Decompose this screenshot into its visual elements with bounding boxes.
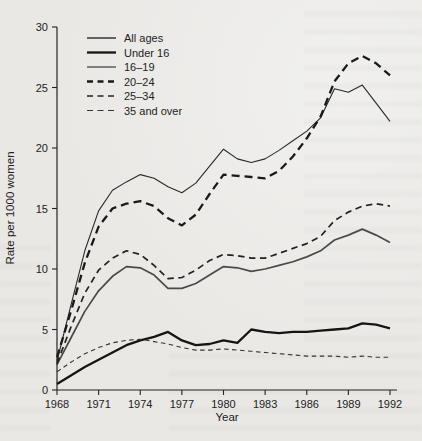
- x-tick-label: 1968: [45, 398, 69, 410]
- x-tick-label: 1992: [378, 398, 402, 410]
- x-tick-label: 1974: [128, 398, 152, 410]
- legend-label: 20–24: [124, 76, 155, 88]
- x-tick-label: 1983: [253, 398, 277, 410]
- legend: All agesUnder 1616–1920–2425–3435 and ov…: [87, 32, 182, 117]
- y-tick-label: 5: [42, 324, 48, 336]
- legend-item-20-24: 20–24: [87, 76, 155, 88]
- scanned-book-page: 1968197119741977198019831986198919920510…: [0, 0, 422, 441]
- axes-layer: 1968197119741977198019831986198919920510…: [36, 21, 402, 410]
- series-line-16-19: [57, 85, 390, 361]
- legend-label: Under 16: [124, 47, 169, 59]
- legend-item-25-34: 25–34: [87, 90, 155, 102]
- abortion-rate-line-chart: 1968197119741977198019831986198919920510…: [0, 0, 422, 441]
- y-tick-label: 0: [42, 384, 48, 396]
- legend-label: All ages: [124, 32, 164, 44]
- legend-label: 16–19: [124, 61, 155, 73]
- legend-label: 25–34: [124, 90, 155, 102]
- x-tick-label: 1977: [170, 398, 194, 410]
- y-tick-label: 25: [36, 82, 48, 94]
- y-tick-label: 10: [36, 263, 48, 275]
- series-layer: [57, 56, 390, 384]
- x-tick-label: 1980: [211, 398, 235, 410]
- x-tick-label: 1986: [295, 398, 319, 410]
- series-line-under-16: [57, 323, 390, 384]
- y-tick-label: 20: [36, 142, 48, 154]
- legend-item-under-16: Under 16: [87, 47, 169, 59]
- legend-item-16-19: 16–19: [87, 61, 155, 73]
- legend-item-35-and-over: 35 and over: [87, 105, 182, 117]
- y-tick-label: 15: [36, 203, 48, 215]
- x-tick-label: 1989: [336, 398, 360, 410]
- legend-label: 35 and over: [124, 105, 182, 117]
- x-tick-label: 1971: [86, 398, 110, 410]
- legend-item-all-ages: All ages: [87, 32, 164, 44]
- series-line-20-24: [57, 56, 390, 357]
- x-axis-title: Year: [215, 411, 238, 423]
- y-tick-label: 30: [36, 21, 48, 33]
- y-axis-title: Rate per 1000 women: [4, 151, 16, 264]
